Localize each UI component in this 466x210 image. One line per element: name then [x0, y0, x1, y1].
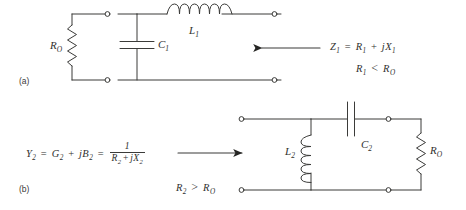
panel-b-circuit [239, 102, 425, 192]
impedance-equation-line1: Z1 = R1 + jX1 [330, 42, 396, 55]
inductor-l2-symbol [301, 135, 311, 183]
label-c2: C2 [361, 139, 372, 153]
label-l2: L2 [285, 146, 295, 160]
admittance-fraction-denominator: R2+jX2 [110, 152, 146, 165]
label-l1: L1 [189, 25, 199, 39]
impedance-condition: R1 < RO [356, 62, 395, 77]
panel-a-circuit [68, 4, 282, 82]
resistor-ro-symbol-a [68, 25, 77, 66]
terminal-b-top-left [239, 117, 244, 122]
label-ro-b: RO [430, 145, 442, 159]
terminal-a-bottom-right [272, 78, 277, 83]
resistor-ro-symbol-b [417, 133, 426, 174]
terminal-a-top-right [272, 12, 277, 17]
terminal-b-top-right [386, 117, 391, 122]
inductor-l1-symbol [167, 4, 232, 14]
label-ro-a: RO [50, 40, 62, 54]
terminal-a-top-left [105, 12, 110, 17]
terminal-b-bottom-left [239, 188, 244, 193]
circuit-vector-layer [0, 0, 466, 210]
admittance-condition: R2 > RO [176, 181, 215, 196]
terminal-b-bottom-right [386, 188, 391, 193]
admittance-fraction: 1 R2+jX2 [110, 142, 146, 165]
panel-tag-a: (a) [19, 76, 29, 86]
label-c1: C1 [158, 39, 169, 53]
admittance-equation: Y2 = G2 + jB2 = 1 R2+jX2 [26, 143, 146, 166]
figure-canvas: RO C1 L1 (a) Z1 = R1 + jX1 R1 < RO Y2 = … [0, 0, 466, 210]
panel-tag-b: (b) [19, 184, 29, 194]
terminal-a-bottom-left [105, 78, 110, 83]
